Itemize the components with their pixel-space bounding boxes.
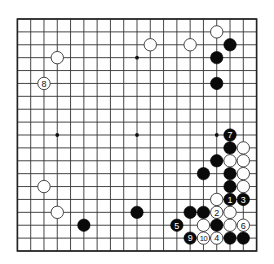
- black-stone: [184, 206, 196, 218]
- black-stone: [211, 77, 223, 89]
- move-number-label: 2: [214, 208, 219, 218]
- white-stone: [211, 26, 223, 38]
- black-stone-disc: [224, 39, 236, 51]
- white-stone: 10: [197, 232, 209, 244]
- black-stone-disc: [224, 167, 236, 179]
- black-stone-disc: [237, 232, 249, 244]
- black-stone: [211, 219, 223, 231]
- black-stone: [197, 167, 209, 179]
- white-stone: [224, 155, 236, 167]
- black-stone-disc: [211, 77, 223, 89]
- white-stone-disc: [184, 39, 196, 51]
- white-stone: [237, 155, 249, 167]
- black-stone-disc: [224, 232, 236, 244]
- move-number-label: 3: [241, 195, 246, 205]
- move-number-label: 5: [174, 221, 179, 231]
- black-stone: [211, 51, 223, 63]
- black-stone: [131, 206, 143, 218]
- white-stone: [184, 39, 196, 51]
- white-stone: 6: [237, 219, 249, 231]
- white-stone-disc: [211, 26, 223, 38]
- black-stone: 9: [184, 232, 196, 244]
- white-stone-disc: [51, 51, 63, 63]
- white-stone: [51, 206, 63, 218]
- black-stone: 5: [171, 219, 183, 231]
- white-stone: [144, 39, 156, 51]
- white-stone-disc: [51, 206, 63, 218]
- white-stone-disc: [224, 219, 236, 231]
- black-stone: [224, 180, 236, 192]
- white-stone: 2: [211, 206, 223, 218]
- black-stone-disc: [224, 142, 236, 154]
- white-stone-disc: [237, 167, 249, 179]
- black-stone: [237, 232, 249, 244]
- move-number-label: 9: [188, 233, 193, 243]
- black-stone-disc: [131, 206, 143, 218]
- black-stone: [224, 232, 236, 244]
- go-board-grid: 87132569104: [0, 0, 274, 264]
- white-stone: [197, 219, 209, 231]
- move-number-label: 4: [214, 233, 219, 243]
- black-stone-disc: [197, 206, 209, 218]
- white-stone-disc: [197, 219, 209, 231]
- black-stone: [224, 39, 236, 51]
- black-stone-disc: [197, 167, 209, 179]
- black-stone: [224, 167, 236, 179]
- black-stone-disc: [78, 219, 90, 231]
- white-stone: [224, 219, 236, 231]
- move-number-label: 1: [228, 195, 233, 205]
- black-stone: [211, 155, 223, 167]
- white-stone: 8: [38, 77, 50, 89]
- black-stone: [197, 206, 209, 218]
- move-number-label: 8: [41, 79, 46, 89]
- move-number-label: 7: [228, 130, 233, 140]
- white-stone: [237, 180, 249, 192]
- white-stone: [51, 51, 63, 63]
- star-point: [135, 133, 139, 137]
- move-number-label: 6: [241, 221, 246, 231]
- white-stone: [237, 142, 249, 154]
- white-stone-disc: [224, 206, 236, 218]
- go-board: 87132569104: [0, 0, 274, 264]
- black-stone-disc: [211, 219, 223, 231]
- black-stone-disc: [224, 180, 236, 192]
- black-stone: 3: [237, 193, 249, 205]
- white-stone: [237, 167, 249, 179]
- white-stone-disc: [237, 180, 249, 192]
- white-stone: 4: [211, 232, 223, 244]
- white-stone-disc: [237, 142, 249, 154]
- black-stone: 7: [224, 129, 236, 141]
- white-stone-disc: [224, 155, 236, 167]
- white-stone: [211, 193, 223, 205]
- black-stone-disc: [184, 206, 196, 218]
- star-point: [135, 56, 139, 60]
- black-stone-disc: [211, 155, 223, 167]
- star-point: [55, 133, 59, 137]
- move-number-label: 10: [200, 234, 208, 243]
- white-stone: [38, 180, 50, 192]
- black-stone-disc: [211, 51, 223, 63]
- black-stone: [224, 142, 236, 154]
- white-stone-disc: [211, 193, 223, 205]
- white-stone: [224, 206, 236, 218]
- black-stone: 1: [224, 193, 236, 205]
- white-stone-disc: [38, 180, 50, 192]
- star-point: [215, 133, 219, 137]
- black-stone: [78, 219, 90, 231]
- white-stone-disc: [237, 155, 249, 167]
- white-stone-disc: [144, 39, 156, 51]
